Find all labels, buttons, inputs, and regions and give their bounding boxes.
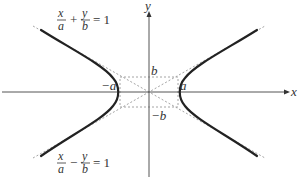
eq-upper-y: y <box>81 6 88 20</box>
label-neg-b: −b <box>151 108 167 123</box>
label-neg-a: −a <box>101 78 117 93</box>
hyperbola-right-branch <box>180 30 257 156</box>
eq-upper-x: x <box>57 6 64 20</box>
y-axis-label: y <box>143 0 151 13</box>
eq-lower-a: a <box>58 162 64 176</box>
equation-upper: x a + y b = 1 <box>57 6 110 33</box>
x-axis-label: x <box>290 84 297 99</box>
x-axis-arrow-icon <box>284 90 290 95</box>
eq-lower-x: x <box>57 149 64 163</box>
eq-lower-equals: = 1 <box>93 155 110 170</box>
eq-upper-b: b <box>82 19 88 33</box>
equation-lower: x a − y b = 1 <box>57 149 110 176</box>
eq-lower-b: b <box>82 162 88 176</box>
eq-upper-equals: = 1 <box>93 12 110 27</box>
hyperbola-diagram: x y −a a b −b x a + y b = 1 x a − y b = … <box>0 0 298 177</box>
label-pos-a: a <box>180 78 187 93</box>
eq-lower-y: y <box>81 149 88 163</box>
label-pos-b: b <box>151 63 158 78</box>
hyperbola-left-branch <box>41 30 118 156</box>
eq-lower-operator: − <box>70 155 77 170</box>
eq-upper-a: a <box>58 19 64 33</box>
eq-upper-operator: + <box>70 12 77 27</box>
